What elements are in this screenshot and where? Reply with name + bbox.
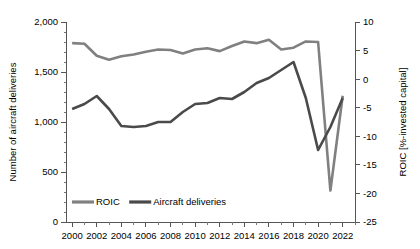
x-tick-label: 2006 [135, 230, 156, 241]
x-tick-label: 2012 [209, 230, 230, 241]
x-tick-label: 2022 [332, 230, 353, 241]
x-tick-label: 2002 [86, 230, 107, 241]
x-tick-label: 2016 [258, 230, 279, 241]
right-tick-label: -10 [363, 131, 377, 142]
right-tick-label: -20 [363, 188, 377, 199]
chart-legend: ROICAircraft deliveries [72, 196, 226, 207]
x-tick-label: 2018 [283, 230, 304, 241]
right-tick-label: 5 [363, 45, 368, 56]
right-tick-label: -5 [363, 102, 371, 113]
series-lines [72, 40, 343, 191]
x-tick-label: 2004 [111, 230, 132, 241]
x-tick-label: 2014 [234, 230, 255, 241]
line-chart: 05001,0001,5002,000 1050-5-10-15-20-25 2… [0, 0, 420, 249]
left-tick-label: 1,000 [34, 116, 58, 127]
left-tick-label: 500 [42, 166, 58, 177]
right-tick-label: -25 [363, 216, 377, 227]
x-tick-label: 2008 [160, 230, 181, 241]
x-axis-ticks: 2000200220042006200820102012201420162018… [62, 222, 355, 241]
chart-container: 05001,0001,5002,000 1050-5-10-15-20-25 2… [0, 0, 420, 249]
left-tick-label: 0 [53, 216, 58, 227]
right-tick-label: 10 [363, 16, 374, 27]
x-tick-label: 2000 [62, 230, 83, 241]
right-axis-title: ROIC [%-invested capital] [397, 68, 408, 177]
series-line-aircraft-deliveries [72, 62, 343, 150]
right-tick-label: -15 [363, 159, 377, 170]
x-tick-label: 2020 [308, 230, 329, 241]
legend-label: ROIC [96, 196, 120, 207]
x-tick-label: 2010 [185, 230, 206, 241]
left-axis-title: Number of aircraft deliveries [7, 62, 18, 181]
left-tick-label: 2,000 [34, 16, 58, 27]
legend-label: Aircraft deliveries [153, 196, 226, 207]
right-tick-label: 0 [363, 74, 368, 85]
right-axis-ticks: 1050-5-10-15-20-25 [355, 16, 377, 227]
left-tick-label: 1,500 [34, 66, 58, 77]
left-axis-ticks: 05001,0001,5002,000 [34, 16, 66, 227]
